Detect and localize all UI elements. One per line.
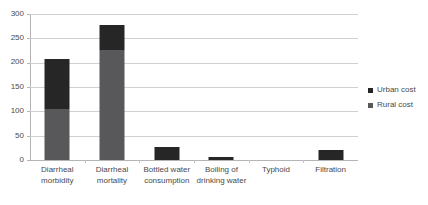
x-axis-label-line: Diarrheal [85,164,140,175]
x-axis-label-bottled-water-consumption: Bottled water consumption [136,164,197,186]
x-axis-label-diarrheal-morbidity: Diarrheal morbidity [30,164,85,186]
x-axis-tick-mark [139,160,140,163]
bars-layer [30,14,358,160]
legend-label: Rural cost [377,101,413,109]
bar-stack[interactable] [45,59,70,160]
bar-segment-rural[interactable] [45,109,70,160]
y-axis-tick-label: 250 [11,34,24,42]
bar-group-boiling-of-drinking-water[interactable] [194,14,249,160]
bar-segment-urban[interactable] [209,157,234,160]
x-axis-label-filtration: Filtration [303,164,358,175]
x-axis-label-line: Bottled water [136,164,197,175]
legend-item-rural-cost[interactable]: Rural cost [368,101,416,109]
x-axis-label-line: Boiling of [191,164,252,175]
bar-stack[interactable] [318,150,343,160]
x-axis-tick-mark [194,160,195,163]
bar-stack[interactable] [99,25,124,160]
plot-area [30,14,358,160]
x-axis-label-line: Typhoid [249,164,304,175]
bar-group-filtration[interactable] [303,14,358,160]
bar-segment-urban[interactable] [99,25,124,49]
x-axis-tick-mark [303,160,304,163]
x-axis-label-line: Filtration [303,164,358,175]
legend-label: Urban cost [377,86,416,94]
bar-segment-urban[interactable] [45,59,70,109]
legend-item-urban-cost[interactable]: Urban cost [368,86,416,94]
bar-segment-urban[interactable] [318,150,343,160]
y-axis-tick-label: 100 [11,107,24,115]
square-marker-icon [368,88,373,93]
stacked-bar-chart: 300 250 200 150 100 50 0 [0,0,428,205]
bar-group-diarrheal-morbidity[interactable] [30,14,85,160]
bar-group-typhoid[interactable] [249,14,304,160]
x-axis-label-diarrheal-mortality: Diarrheal mortality [85,164,140,186]
square-marker-icon [368,103,373,108]
x-axis-tick-mark [249,160,250,163]
x-axis-label-line: consumption [136,175,197,186]
y-axis-tick-label: 150 [11,83,24,91]
bar-segment-rural[interactable] [99,50,124,160]
x-axis-label-line: Diarrheal [30,164,85,175]
y-axis-tick-label: 50 [15,132,24,140]
bar-stack[interactable] [154,147,179,160]
y-axis-tick-label: 0 [20,156,24,164]
y-axis-tick-label: 300 [11,10,24,18]
x-axis-tick-mark [85,160,86,163]
x-axis-label-line: morbidity [30,175,85,186]
bar-group-diarrheal-mortality[interactable] [85,14,140,160]
x-axis-label-line: mortality [85,175,140,186]
bar-segment-urban[interactable] [154,147,179,160]
x-axis-label-typhoid: Typhoid [249,164,304,175]
y-axis-tick-label: 200 [11,58,24,66]
chart-legend: Urban cost Rural cost [368,86,416,116]
x-axis-category-labels: Diarrheal morbidity Diarrheal mortality … [30,164,358,204]
x-axis-label-line: drinking water [191,175,252,186]
y-axis-tick-labels: 300 250 200 150 100 50 0 [0,0,28,205]
bar-stack[interactable] [209,157,234,160]
x-axis-label-boiling-of-drinking-water: Boiling of drinking water [191,164,252,186]
bar-group-bottled-water-consumption[interactable] [139,14,194,160]
